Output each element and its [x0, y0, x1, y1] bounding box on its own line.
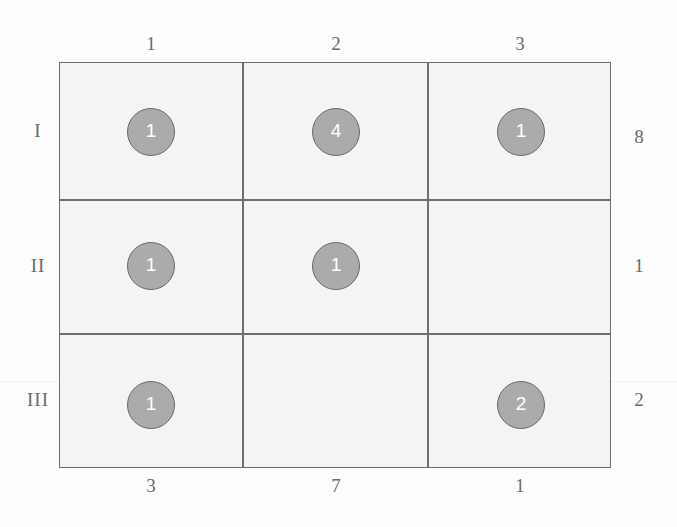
- column-label-top-1: 1: [121, 33, 181, 55]
- cell-iii-1[interactable]: 1: [60, 333, 242, 469]
- token-ii-1[interactable]: 1: [127, 242, 175, 290]
- row-label-right-ii: 1: [619, 255, 659, 277]
- cell-ii-2[interactable]: 1: [242, 199, 427, 333]
- token-i-1[interactable]: 1: [127, 108, 175, 156]
- row-label-left-iii: III: [18, 389, 58, 411]
- cell-i-3[interactable]: 1: [427, 63, 612, 199]
- token-i-2[interactable]: 4: [312, 108, 360, 156]
- token-ii-2[interactable]: 1: [312, 242, 360, 290]
- column-label-bottom-1: 3: [121, 475, 181, 497]
- row-label-right-iii: 2: [619, 389, 659, 411]
- column-label-bottom-2: 7: [306, 475, 366, 497]
- cell-ii-1[interactable]: 1: [60, 199, 242, 333]
- column-label-top-3: 3: [490, 33, 550, 55]
- token-i-3[interactable]: 1: [497, 108, 545, 156]
- column-label-bottom-3: 1: [490, 475, 550, 497]
- diagram-canvas: 1 2 3 I II III 8 1 2 3 7 1 1 4 1 1 1: [0, 0, 677, 527]
- column-label-top-2: 2: [306, 33, 366, 55]
- cell-ii-3[interactable]: [427, 199, 612, 333]
- token-iii-1[interactable]: 1: [127, 381, 175, 429]
- cell-iii-3[interactable]: 2: [427, 333, 612, 469]
- token-iii-3[interactable]: 2: [497, 381, 545, 429]
- row-label-right-i: 8: [619, 126, 659, 148]
- cell-i-2[interactable]: 4: [242, 63, 427, 199]
- cell-i-1[interactable]: 1: [60, 63, 242, 199]
- row-label-left-ii: II: [18, 255, 58, 277]
- matrix-grid: 1 4 1 1 1 1 2: [59, 62, 611, 468]
- row-label-left-i: I: [18, 120, 58, 142]
- cell-iii-2[interactable]: [242, 333, 427, 469]
